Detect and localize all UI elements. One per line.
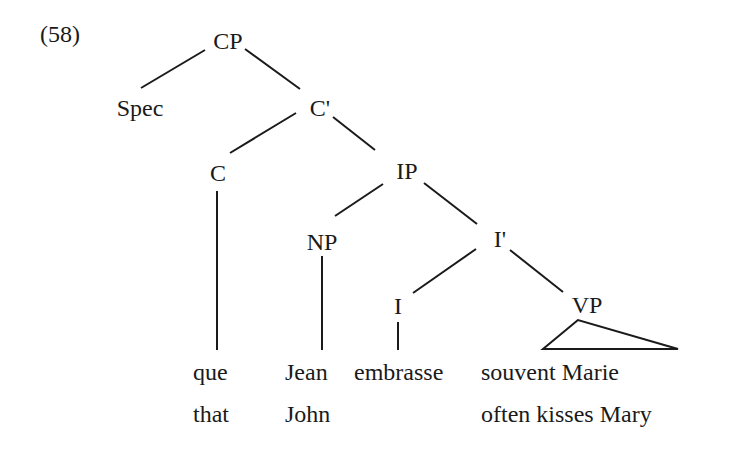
edge-ip-ibar [424,183,477,224]
edge-cp-spec [141,50,205,88]
node-cp: CP [213,29,242,53]
edge-cbar-ip [333,117,375,150]
word-embrasse: embrasse [354,360,443,384]
word-souvent-marie: souvent Marie [481,360,619,384]
edge-ibar-i [413,249,476,293]
word-jean: Jean [285,360,328,384]
node-i: I [394,294,402,318]
gloss-john: John [285,402,330,426]
word-que: que [193,360,228,384]
tree-edges [0,0,729,461]
example-number: (58) [40,22,80,46]
node-spec: Spec [117,96,164,120]
node-c-bar: C' [310,96,330,120]
node-ip: IP [396,159,417,183]
edge-ip-np [335,184,383,216]
edge-cp-cbar [245,49,300,89]
gloss-often-kisses-mary: often kisses Mary [481,402,652,426]
node-i-bar: I' [494,227,506,251]
node-c: C [210,161,226,185]
edge-ibar-vp [510,250,563,292]
gloss-that: that [193,402,229,426]
vp-triangle [543,320,678,349]
edge-cbar-c [230,113,296,153]
node-vp: VP [572,293,603,317]
node-np: NP [307,230,338,254]
